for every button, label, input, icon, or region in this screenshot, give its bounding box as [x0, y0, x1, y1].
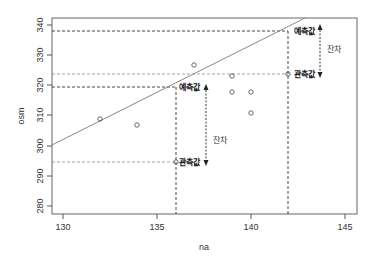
annotation-136: 예측값 관측값 잔차 — [179, 82, 228, 167]
predicted-label: 예측값 — [179, 82, 201, 92]
y-tick-labels: 340 330 320 310 300 290 280 — [35, 17, 45, 213]
y-axis — [47, 25, 52, 206]
svg-text:135: 135 — [149, 222, 164, 232]
observed-label: 관측값 — [294, 69, 316, 79]
plot-frame — [52, 18, 357, 214]
predicted-label: 예측값 — [294, 26, 316, 36]
residual-label: 잔차 — [327, 44, 342, 54]
regression-line — [52, 18, 305, 145]
annotation-142: 예측값 관측값 잔차 — [294, 24, 342, 79]
svg-text:300: 300 — [35, 138, 45, 153]
y-axis-title: osm — [16, 107, 26, 124]
svg-text:330: 330 — [35, 47, 45, 62]
x-tick-labels: 130 135 140 145 — [55, 222, 352, 232]
x-axis — [63, 214, 345, 219]
svg-text:280: 280 — [35, 198, 45, 213]
observed-label: 관측값 — [179, 157, 201, 167]
reference-lines — [52, 31, 288, 214]
svg-text:320: 320 — [35, 77, 45, 92]
x-axis-title: na — [199, 242, 209, 252]
svg-text:140: 140 — [243, 222, 258, 232]
svg-text:290: 290 — [35, 168, 45, 183]
svg-text:130: 130 — [55, 222, 70, 232]
chart-canvas: 340 330 320 310 300 290 280 osm 130 135 … — [0, 0, 376, 265]
residual-label: 잔차 — [213, 135, 228, 145]
svg-text:145: 145 — [337, 222, 352, 232]
data-points — [98, 63, 290, 164]
svg-text:340: 340 — [35, 17, 45, 32]
svg-text:310: 310 — [35, 107, 45, 122]
